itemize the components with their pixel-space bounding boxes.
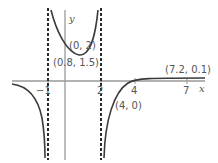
y-axis-label: y: [69, 14, 75, 24]
function-graph: [0, 0, 218, 163]
curve-right-branch: [104, 78, 205, 158]
tick-label-neg1: −1: [36, 86, 51, 96]
point-label-root: (4, 0): [115, 101, 142, 111]
point-label-minimum: (0.8, 1.5): [53, 58, 99, 68]
point-label-far: (7.2, 0.1): [165, 65, 211, 75]
x-axis-label: x: [199, 84, 205, 94]
point-label-0-2: (0, 2): [69, 41, 96, 51]
tick-label-4: 4: [131, 86, 137, 96]
tick-label-7: 7: [183, 86, 189, 96]
tick-label-2: 2: [97, 86, 103, 96]
